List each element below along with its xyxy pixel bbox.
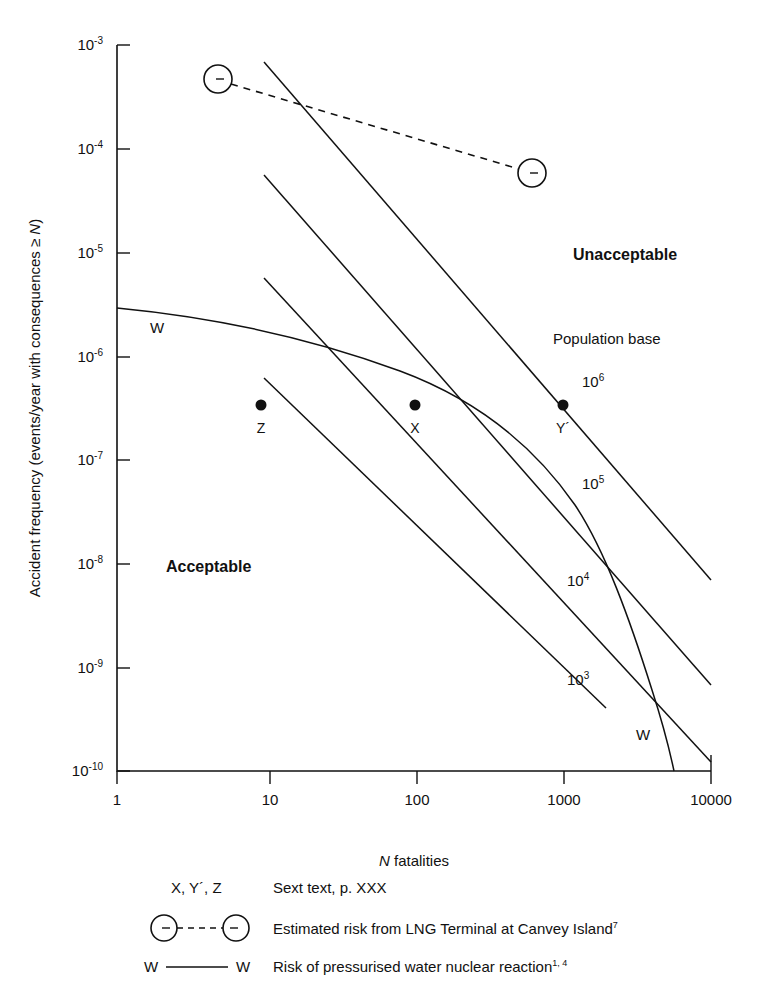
data-point-z-label: Z <box>257 420 266 436</box>
y-tick-label-1e-8: 10-8 <box>77 554 103 572</box>
y-tick-label-1e-5: 10-5 <box>77 243 103 261</box>
y-tick-label-1e-6: 10-6 <box>77 347 103 365</box>
x-tick-label-10: 10 <box>262 791 279 808</box>
x-tick-label-1000: 1000 <box>547 791 580 808</box>
legend-key-points: X, Y´, Z <box>171 879 222 896</box>
data-point-x-marker <box>410 400 421 411</box>
y-axis-ticks <box>117 45 130 771</box>
y-axis-tick-labels: 10-3 10-4 10-5 10-6 10-7 10-8 10-9 10-10 <box>72 35 104 779</box>
y-tick-label-1e-3: 10-3 <box>77 35 103 53</box>
population-line-label-1e6: 106 <box>582 372 605 390</box>
legend-text-nuclear: Risk of pressurised water nuclear reacti… <box>273 958 567 975</box>
legend-row-nuclear: W W Risk of pressurised water nuclear re… <box>144 958 567 975</box>
x-axis-tick-labels: 1 10 100 1000 10000 <box>113 791 732 808</box>
x-axis-title: N fatalities <box>379 852 449 869</box>
population-line-1e6 <box>264 62 711 580</box>
y-tick-label-1e-7: 10-7 <box>77 450 103 468</box>
y-axis-title-group: Accident frequency (events/year with con… <box>26 219 43 597</box>
legend-text-points: Sext text, p. XXX <box>273 879 386 896</box>
nuclear-curve-label-end: W <box>636 726 651 743</box>
legend-text-canvey: Estimated risk from LNG Terminal at Canv… <box>273 920 618 937</box>
data-point-yprime-marker <box>558 400 569 411</box>
data-point-z-marker <box>256 400 267 411</box>
population-base-heading: Population base <box>553 330 661 347</box>
y-axis-title: Accident frequency (events/year with con… <box>26 219 43 597</box>
zone-label-unacceptable: Unacceptable <box>573 246 677 263</box>
chart-svg: 10-3 10-4 10-5 10-6 10-7 10-8 10-9 10-10… <box>0 0 778 989</box>
legend-row-points: X, Y´, Z Sext text, p. XXX <box>171 879 386 896</box>
canvey-island-dashed-connector <box>231 84 519 169</box>
data-points-group: Z X Y´ <box>256 400 571 437</box>
data-point-yprime-label: Y´ <box>556 420 570 436</box>
y-tick-label-1e-4: 10-4 <box>77 139 103 157</box>
nuclear-curve-label-start: W <box>150 319 165 336</box>
y-tick-label-1e-10: 10-10 <box>72 761 104 779</box>
population-line-label-1e3: 103 <box>567 670 590 688</box>
population-line-label-1e5: 105 <box>582 474 605 492</box>
legend-row-canvey: Estimated risk from LNG Terminal at Canv… <box>151 915 618 941</box>
data-point-x-label: X <box>410 420 420 436</box>
fn-risk-chart-figure: 10-3 10-4 10-5 10-6 10-7 10-8 10-9 10-10… <box>0 0 778 989</box>
legend: X, Y´, Z Sext text, p. XXX Estimated ris… <box>144 879 618 975</box>
legend-key-w-right: W <box>236 958 251 975</box>
x-tick-label-1: 1 <box>113 791 121 808</box>
population-line-label-1e4: 104 <box>567 571 590 589</box>
population-base-lines <box>264 62 711 762</box>
x-tick-label-100: 100 <box>404 791 429 808</box>
canvey-island-risk-group <box>204 65 546 187</box>
population-line-1e4 <box>264 278 711 762</box>
x-tick-label-10000: 10000 <box>690 791 732 808</box>
x-axis-ticks <box>117 771 711 784</box>
zone-label-acceptable: Acceptable <box>166 558 251 575</box>
population-line-1e3 <box>264 378 606 708</box>
y-tick-label-1e-9: 10-9 <box>77 658 103 676</box>
legend-key-w-left: W <box>144 958 159 975</box>
